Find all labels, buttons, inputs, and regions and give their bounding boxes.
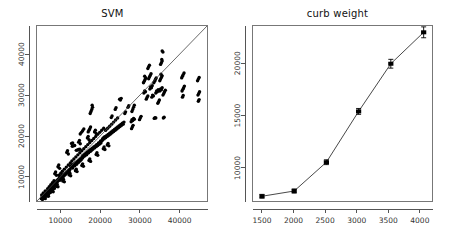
x-axis-svm: 10000200003000040000 — [37, 209, 208, 225]
svg-text:1500: 1500 — [252, 216, 271, 225]
panel-curb-plot: 150020002500300035004000 100001500020000 — [225, 0, 450, 242]
svg-text:2000: 2000 — [284, 216, 303, 225]
error-bars-group — [259, 27, 426, 198]
svg-text:20000: 20000 — [233, 51, 242, 75]
y-axis-curb: 100001500020000 — [233, 26, 245, 202]
identity-reference-line — [37, 26, 208, 202]
plot-box-curb — [253, 26, 433, 202]
svg-text:10000: 10000 — [17, 165, 26, 189]
scatter-points-group — [40, 49, 202, 201]
svg-text:15000: 15000 — [233, 103, 242, 127]
svg-text:10000: 10000 — [48, 216, 72, 225]
panel-svm-title: SVM — [0, 8, 225, 19]
svg-text:40000: 40000 — [17, 42, 26, 66]
panel-svm: SVM 10000200003000040000 100002000030000… — [0, 0, 225, 242]
svg-text:3500: 3500 — [379, 216, 398, 225]
y-axis-svm: 10000200003000040000 — [17, 26, 29, 202]
figure-canvas: SVM 10000200003000040000 100002000030000… — [0, 0, 450, 242]
svg-text:2500: 2500 — [316, 216, 335, 225]
panel-svm-plot: 10000200003000040000 1000020000300004000… — [0, 0, 225, 242]
curb-weight-line — [262, 32, 424, 196]
panel-curb-title: curb weight — [225, 8, 450, 19]
svg-text:20000: 20000 — [88, 216, 112, 225]
svg-text:4000: 4000 — [410, 216, 429, 225]
svg-text:40000: 40000 — [168, 216, 192, 225]
svg-text:10000: 10000 — [233, 156, 242, 180]
data-markers-group — [259, 30, 426, 198]
svg-text:20000: 20000 — [17, 124, 26, 148]
svg-text:30000: 30000 — [128, 216, 152, 225]
svg-text:3000: 3000 — [347, 216, 366, 225]
x-axis-curb: 150020002500300035004000 — [252, 209, 432, 225]
svg-text:30000: 30000 — [17, 83, 26, 107]
panel-curb-weight: curb weight 150020002500300035004000 100… — [225, 0, 450, 242]
